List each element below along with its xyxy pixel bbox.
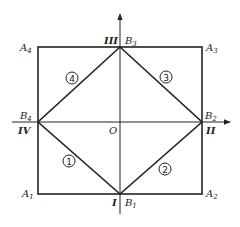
svg-text:1: 1 [66, 157, 72, 167]
label-origin: O [109, 125, 117, 136]
label-I: I [111, 197, 117, 208]
svg-text:4: 4 [69, 74, 75, 84]
label-B2: B2 [204, 110, 217, 123]
diagram-canvas: A4 A3 A1 A2 B3 B2 B4 B1 III II IV I O 1 … [0, 0, 240, 227]
label-A4: A4 [19, 42, 32, 55]
svg-text:2: 2 [162, 165, 168, 175]
region-1-marker: 1 [63, 155, 75, 167]
region-3-marker: 3 [160, 71, 172, 83]
region-2-marker: 2 [159, 163, 171, 175]
label-A3: A3 [205, 42, 218, 55]
svg-text:3: 3 [163, 73, 169, 83]
label-IV: IV [17, 125, 32, 136]
label-A2: A2 [205, 188, 218, 201]
region-4-marker: 4 [66, 72, 78, 84]
label-A1: A1 [21, 188, 34, 201]
label-B4: B4 [19, 110, 32, 123]
label-B3: B3 [124, 35, 137, 48]
label-III: III [103, 35, 118, 46]
label-II: II [205, 125, 216, 136]
label-B1: B1 [124, 197, 137, 210]
